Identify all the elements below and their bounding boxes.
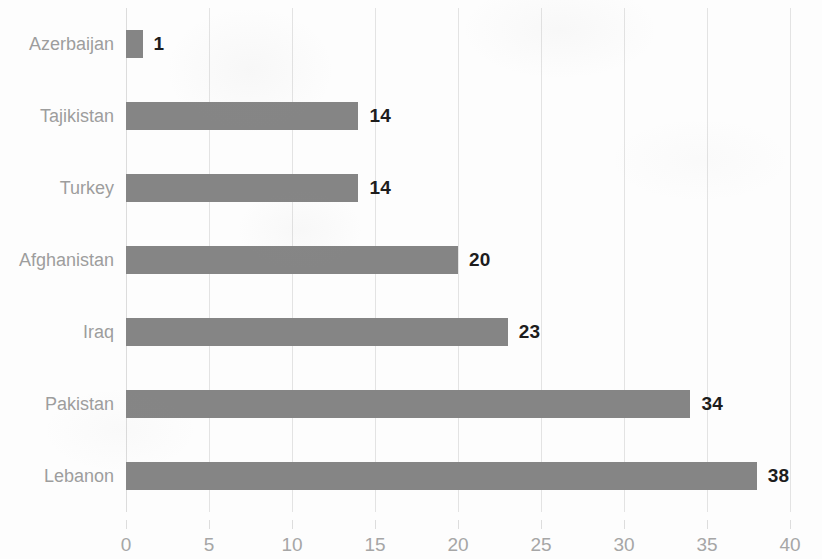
plot-area: 05101520253035401141420233438 [126, 8, 790, 512]
x-tick-5 [209, 520, 210, 529]
x-tick-40 [790, 520, 791, 529]
category-label: Iraq [0, 318, 114, 346]
category-label: Pakistan [0, 390, 114, 418]
bar-value-label: 14 [369, 102, 391, 130]
gridline-x-25 [541, 8, 542, 512]
category-axis: AzerbaijanTajikistanTurkeyAfghanistanIra… [0, 8, 114, 512]
bar-value-label: 1 [154, 30, 165, 58]
x-tick-30 [624, 520, 625, 529]
x-tick-label: 35 [677, 531, 737, 559]
x-tick-10 [292, 520, 293, 529]
bar [126, 246, 458, 274]
x-tick-label: 25 [511, 531, 571, 559]
x-tick-label: 20 [428, 531, 488, 559]
x-tick-0 [126, 520, 127, 529]
category-label: Azerbaijan [0, 30, 114, 58]
gridline-x-20 [458, 8, 459, 512]
x-tick-35 [707, 520, 708, 529]
bar [126, 318, 508, 346]
bar-value-label: 34 [701, 390, 723, 418]
category-label: Tajikistan [0, 102, 114, 130]
bar [126, 390, 690, 418]
bar [126, 174, 358, 202]
category-label: Turkey [0, 174, 114, 202]
bar-value-label: 14 [369, 174, 391, 202]
bar [126, 102, 358, 130]
bar-chart: AzerbaijanTajikistanTurkeyAfghanistanIra… [0, 0, 822, 559]
category-label: Lebanon [0, 462, 114, 490]
bar [126, 462, 757, 490]
x-tick-25 [541, 520, 542, 529]
x-tick-label: 15 [345, 531, 405, 559]
bar-value-label: 20 [469, 246, 491, 274]
x-tick-15 [375, 520, 376, 529]
x-tick-label: 0 [96, 531, 156, 559]
x-tick-label: 5 [179, 531, 239, 559]
gridline-x-35 [707, 8, 708, 512]
x-tick-label: 10 [262, 531, 322, 559]
category-label: Afghanistan [0, 246, 114, 274]
bar [126, 30, 143, 58]
gridline-x-30 [624, 8, 625, 512]
bar-value-label: 38 [768, 462, 790, 490]
gridline-x-40 [790, 8, 791, 512]
x-tick-20 [458, 520, 459, 529]
x-tick-label: 30 [594, 531, 654, 559]
bar-value-label: 23 [519, 318, 541, 346]
x-tick-label: 40 [760, 531, 820, 559]
